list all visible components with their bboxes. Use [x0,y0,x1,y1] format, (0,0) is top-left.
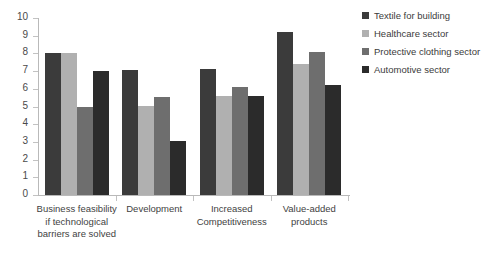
y-axis-tick-label: 0 [22,188,28,199]
y-axis-tick-mark [33,195,38,196]
bar-group [122,18,186,195]
y-axis-tick-label: 2 [22,153,28,164]
bar-group [277,18,341,195]
bar-chart: 109876543210 Business feasibility if tec… [0,0,494,257]
legend-item: Automotive sector [362,64,494,75]
bar [122,70,138,195]
legend-label: Protective clothing sector [374,46,480,57]
y-axis-tick-label: 9 [22,29,28,40]
y-axis-tick-label: 8 [22,46,28,57]
bar [77,107,93,196]
bar [248,96,264,195]
bar [93,71,109,195]
x-axis-tick-mark [348,196,349,201]
bar [293,64,309,195]
legend-swatch-icon [362,12,369,19]
x-axis-tick-mark [116,196,117,201]
x-axis-tick-mark [271,196,272,201]
legend-label: Textile for building [374,10,450,21]
y-axis-tick-label: 1 [22,170,28,181]
x-axis-category-label: Value-added products [259,203,361,228]
plot-area [38,18,348,195]
legend-item: Healthcare sector [362,28,494,39]
bar [325,85,341,195]
bar [170,141,186,195]
chart-legend: Textile for buildingHealthcare sectorPro… [362,10,494,82]
bar [277,32,293,195]
legend-label: Automotive sector [374,64,450,75]
y-axis-tick-label: 6 [22,82,28,93]
x-axis-line [38,195,350,196]
legend-item: Protective clothing sector [362,46,494,57]
bar [45,53,61,195]
y-axis-tick-label: 7 [22,64,28,75]
bar-group [200,18,264,195]
y-axis-tick-label: 4 [22,117,28,128]
y-axis-tick-label: 10 [17,11,28,22]
bar-group [45,18,109,195]
x-axis-tick-mark [193,196,194,201]
legend-swatch-icon [362,66,369,73]
legend-swatch-icon [362,30,369,37]
bar [138,106,154,195]
legend-swatch-icon [362,48,369,55]
y-axis-tick-label: 5 [22,100,28,111]
bar [154,97,170,195]
bar [309,52,325,195]
bar [216,96,232,195]
legend-item: Textile for building [362,10,494,21]
y-axis-tick-label: 3 [22,135,28,146]
bar [61,53,77,195]
bar [200,69,216,195]
bar [232,87,248,195]
legend-label: Healthcare sector [374,28,448,39]
